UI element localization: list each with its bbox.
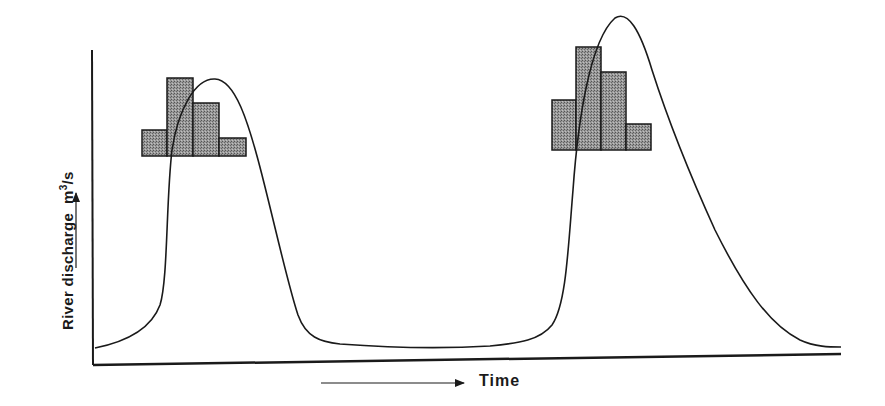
rainfall-histogram-2: [552, 47, 651, 150]
x-axis-label: Time: [479, 372, 520, 390]
discharge-curve: [95, 16, 841, 348]
rainfall-bar: [626, 124, 651, 150]
y-axis-unit-sup: 3: [58, 184, 69, 190]
rainfall-bar: [576, 47, 601, 150]
y-axis-label: River discharge m3/s: [58, 171, 76, 330]
y-axis-unit-base: m: [59, 190, 76, 204]
rainfall-bar: [552, 100, 576, 150]
y-axis-label-text: River discharge: [59, 213, 76, 330]
rainfall-bar: [601, 72, 626, 150]
rainfall-bar: [219, 138, 246, 156]
x-axis: [93, 354, 841, 365]
y-axis: [92, 50, 93, 365]
rainfall-bar: [193, 103, 219, 156]
axes: [92, 50, 841, 365]
hydrograph-chart: [0, 0, 885, 406]
rainfall-bar: [142, 130, 167, 156]
y-axis-unit-tail: /s: [59, 171, 76, 184]
